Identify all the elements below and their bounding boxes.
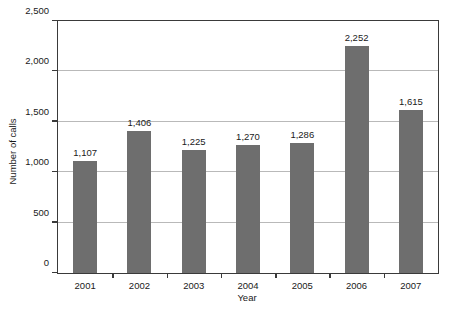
bar[interactable] bbox=[73, 161, 97, 273]
bar[interactable] bbox=[345, 46, 369, 273]
x-axis-tick-label: 2007 bbox=[400, 280, 421, 291]
bar-value-label: 1,286 bbox=[290, 129, 314, 140]
y-axis-tick-label: 1,000 bbox=[25, 156, 49, 167]
x-axis-tick bbox=[384, 273, 385, 278]
bar-value-label: 1,270 bbox=[236, 131, 260, 142]
plot-area: 05001,0001,5002,0002,500 1,10720011,4062… bbox=[57, 20, 439, 274]
bar-value-label: 1,107 bbox=[73, 147, 97, 158]
bar-group[interactable]: 1,2252003 bbox=[167, 21, 221, 273]
y-axis-tick-label: 0 bbox=[44, 257, 49, 268]
x-axis-tick bbox=[167, 273, 168, 278]
bar-group[interactable]: 1,6152007 bbox=[384, 21, 438, 273]
x-axis-tick bbox=[275, 273, 276, 278]
bar[interactable] bbox=[290, 143, 314, 273]
bar-group[interactable]: 2,2522006 bbox=[329, 21, 383, 273]
bar-value-label: 1,406 bbox=[128, 117, 152, 128]
bar[interactable] bbox=[127, 131, 151, 273]
bars-container: 1,10720011,40620021,22520031,27020041,28… bbox=[58, 21, 438, 273]
x-axis-tick-label: 2004 bbox=[237, 280, 258, 291]
bar[interactable] bbox=[182, 150, 206, 273]
bar-value-label: 1,225 bbox=[182, 136, 206, 147]
x-axis-tick-label: 2006 bbox=[346, 280, 367, 291]
bar-chart-figure: Number of calls 05001,0001,5002,0002,500… bbox=[0, 0, 459, 317]
y-axis-tick-label: 2,000 bbox=[25, 55, 49, 66]
x-axis-tick-label: 2003 bbox=[183, 280, 204, 291]
bar-group[interactable]: 1,2702004 bbox=[221, 21, 275, 273]
bar-group[interactable]: 1,4062002 bbox=[112, 21, 166, 273]
y-axis-tick-label: 500 bbox=[33, 206, 49, 217]
x-axis-tick-label: 2005 bbox=[292, 280, 313, 291]
x-axis-tick-label: 2002 bbox=[129, 280, 150, 291]
y-axis-tick-label: 2,500 bbox=[25, 5, 49, 16]
bar[interactable] bbox=[236, 145, 260, 273]
bar-group[interactable]: 1,1072001 bbox=[58, 21, 112, 273]
bar-value-label: 1,615 bbox=[399, 96, 423, 107]
x-axis-tick-label: 2001 bbox=[75, 280, 96, 291]
x-axis-tick bbox=[112, 273, 113, 278]
bar-value-label: 2,252 bbox=[345, 32, 369, 43]
y-axis-tick-label: 1,500 bbox=[25, 105, 49, 116]
x-axis-tick bbox=[329, 273, 330, 278]
x-axis-title: Year bbox=[57, 292, 437, 303]
y-axis-title: Number of calls bbox=[7, 92, 18, 212]
x-axis-tick bbox=[221, 273, 222, 278]
bar[interactable] bbox=[399, 110, 423, 273]
bar-group[interactable]: 1,2862005 bbox=[275, 21, 329, 273]
